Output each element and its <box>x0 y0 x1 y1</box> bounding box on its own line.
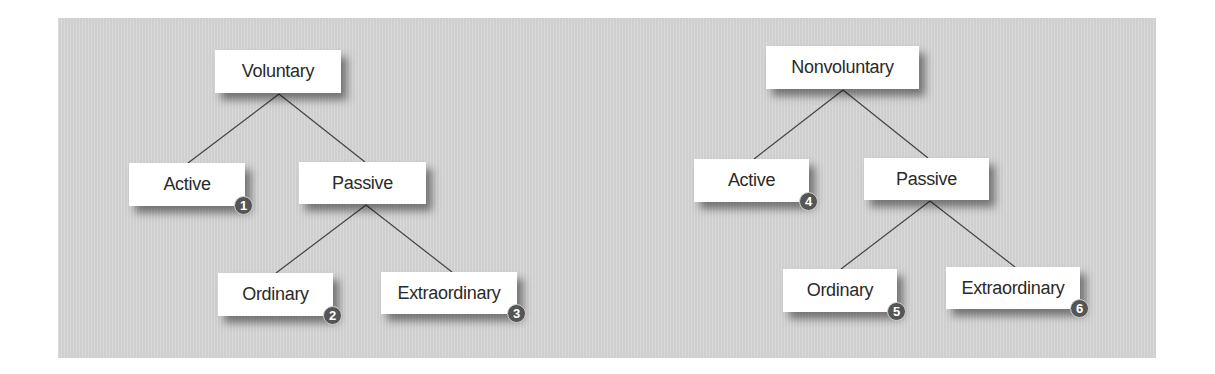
node-nonvoluntary-ordinary: Ordinary <box>783 269 897 312</box>
node-label: Passive <box>896 169 957 190</box>
node-label: Nonvoluntary <box>791 57 893 78</box>
node-voluntary-ordinary: Ordinary <box>218 273 333 316</box>
node-label: Passive <box>332 173 393 194</box>
edge-passive-extraordinary <box>366 205 452 272</box>
node-label: Voluntary <box>242 61 314 82</box>
badge-1: 1 <box>234 196 253 215</box>
node-nonvoluntary-passive: Passive <box>864 158 989 200</box>
edge-nonvoluntary-passive <box>843 90 928 158</box>
node-nonvoluntary-active: Active <box>694 159 809 202</box>
node-label: Active <box>163 174 210 195</box>
edge-voluntary-passive <box>279 94 365 162</box>
badge-2: 2 <box>323 306 342 325</box>
node-label: Extraordinary <box>397 283 500 304</box>
edge-voluntary-active <box>188 94 279 163</box>
edge-passive2-ordinary <box>841 201 930 269</box>
node-nonvoluntary: Nonvoluntary <box>766 46 919 89</box>
edge-passive2-extraordinary <box>930 201 1015 267</box>
node-label: Active <box>728 170 775 191</box>
badge-5: 5 <box>887 302 906 321</box>
badge-4: 4 <box>799 192 818 211</box>
node-label: Ordinary <box>242 284 309 305</box>
node-nonvoluntary-extraordinary: Extraordinary <box>946 267 1080 309</box>
node-label: Extraordinary <box>961 278 1064 299</box>
badge-3: 3 <box>507 304 526 323</box>
badge-6: 6 <box>1070 299 1089 318</box>
node-voluntary-passive: Passive <box>299 162 426 204</box>
edge-passive-ordinary <box>276 205 366 273</box>
node-label: Ordinary <box>807 280 874 301</box>
edge-nonvoluntary-active <box>754 90 843 159</box>
node-voluntary-active: Active <box>129 163 245 206</box>
node-voluntary: Voluntary <box>215 50 341 93</box>
node-voluntary-extraordinary: Extraordinary <box>381 272 517 314</box>
